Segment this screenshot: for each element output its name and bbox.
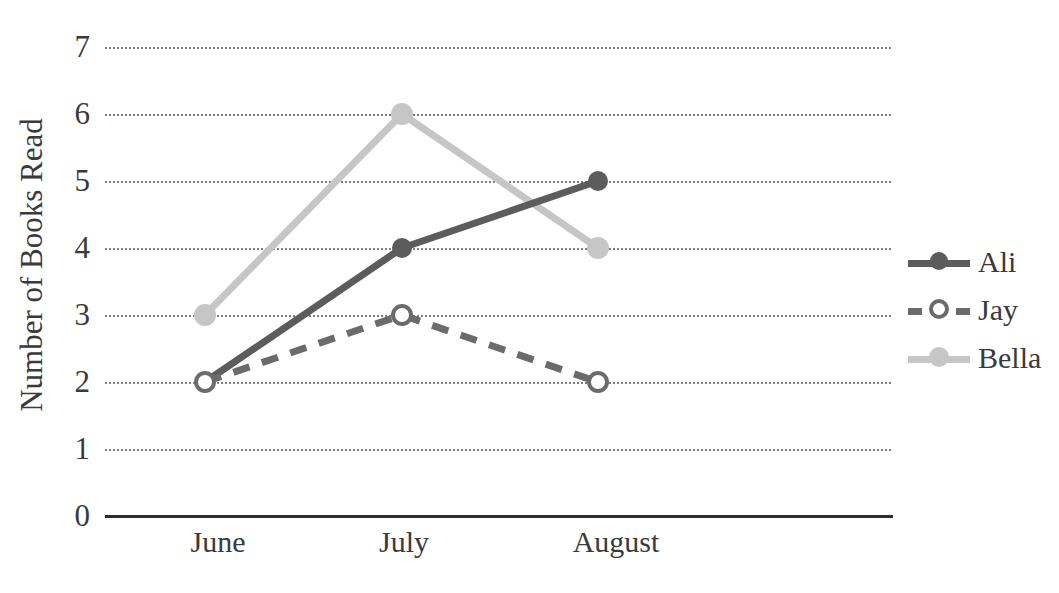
data-point-jay-july: [391, 304, 413, 326]
y-axis-label: Number of Books Read: [14, 55, 50, 475]
legend-label-bella: Bella: [978, 343, 1041, 373]
data-point-bella-june: [194, 304, 216, 326]
y-tick-label-1: 1: [46, 433, 90, 464]
x-axis-line: [105, 515, 893, 518]
x-tick-label-july: July: [379, 525, 429, 559]
series-line-bella: [205, 114, 598, 315]
y-tick-label-7: 7: [46, 31, 90, 62]
y-tick-label-2: 2: [46, 366, 90, 397]
y-tick-label-4: 4: [46, 232, 90, 263]
legend-item-ali[interactable]: Ali: [908, 238, 1058, 286]
x-tick-label-august: August: [573, 525, 660, 559]
legend-item-jay[interactable]: Jay: [908, 286, 1058, 334]
legend-swatch-ali-icon: [908, 251, 970, 273]
data-point-jay-june: [194, 371, 216, 393]
x-tick-label-june: June: [191, 525, 246, 559]
series-lines: [105, 47, 891, 516]
data-point-ali-july: [392, 238, 412, 258]
legend-swatch-jay-icon: [908, 299, 970, 321]
y-tick-label-3: 3: [46, 299, 90, 330]
legend-label-ali: Ali: [978, 247, 1016, 277]
data-point-jay-august: [587, 371, 609, 393]
y-tick-label-0: 0: [46, 500, 90, 531]
legend: Ali Jay Bella: [908, 238, 1058, 382]
plot-area: [105, 47, 891, 516]
data-point-bella-july: [391, 103, 413, 125]
data-point-bella-august: [587, 237, 609, 259]
y-tick-label-5: 5: [46, 165, 90, 196]
data-point-ali-august: [588, 171, 608, 191]
y-tick-label-6: 6: [46, 98, 90, 129]
chart-title: Number of Books Read Over the Summer: [0, 0, 893, 7]
legend-swatch-bella-icon: [908, 347, 970, 369]
line-chart: Number of Books Read Over the Summer Num…: [0, 0, 1059, 593]
legend-item-bella[interactable]: Bella: [908, 334, 1058, 382]
legend-label-jay: Jay: [978, 295, 1018, 325]
